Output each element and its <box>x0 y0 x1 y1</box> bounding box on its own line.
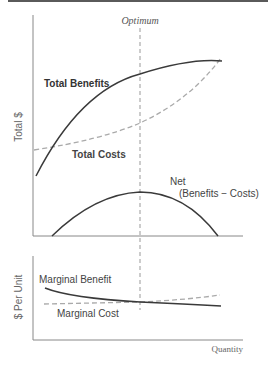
marginal-benefit-label: Marginal Benefit <box>39 274 111 285</box>
total-costs-curve <box>34 58 221 150</box>
bottom-y-axis-label: $ Per Unit <box>13 275 24 320</box>
marginal-cost-label: Marginal Cost <box>57 308 119 319</box>
quantity-label: Quantity <box>212 344 244 354</box>
net-formula-label: (Benefits − Costs) <box>179 188 259 199</box>
marginal-cost-curve <box>44 295 220 304</box>
net-label: Net <box>170 176 186 187</box>
optimum-label: Optimum <box>121 15 158 26</box>
top-y-axis-label: Total $ <box>13 112 24 142</box>
total-benefits-label: Total Benefits <box>44 78 110 89</box>
total-costs-label: Total Costs <box>72 149 126 160</box>
marginal-analysis-diagram: Optimum Total $ Total Benefits Total Cos… <box>0 0 277 367</box>
